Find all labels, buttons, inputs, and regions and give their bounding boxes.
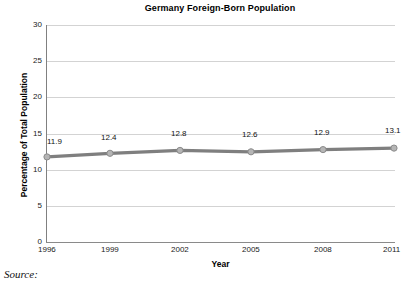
data-point-marker <box>248 149 254 155</box>
data-point-label: 12.8 <box>171 130 187 138</box>
x-tick-label: 1999 <box>101 245 119 254</box>
chart-figure: Germany Foreign-Born Population Percenta… <box>0 0 414 286</box>
x-tick-label: 1996 <box>38 245 56 254</box>
data-point-marker <box>107 150 113 156</box>
data-point-label: 12.4 <box>101 134 117 142</box>
source-label: Source: <box>4 268 38 280</box>
data-point-marker <box>44 154 50 160</box>
data-point-label: 12.9 <box>314 129 330 137</box>
data-point-label: 13.1 <box>385 127 401 135</box>
data-point-marker <box>391 145 397 151</box>
data-point-marker <box>177 147 183 153</box>
x-tick-label: 2008 <box>314 245 332 254</box>
x-tick-label: 2011 <box>383 245 400 254</box>
data-point-marker <box>320 147 326 153</box>
series-line <box>47 148 394 157</box>
x-tick-label: 2005 <box>242 245 260 254</box>
x-tick-label: 2002 <box>171 245 189 254</box>
data-point-label: 11.9 <box>47 138 62 146</box>
series-line-and-markers <box>0 0 414 286</box>
data-point-label: 12.6 <box>242 131 258 139</box>
x-axis-title: Year <box>46 259 395 269</box>
